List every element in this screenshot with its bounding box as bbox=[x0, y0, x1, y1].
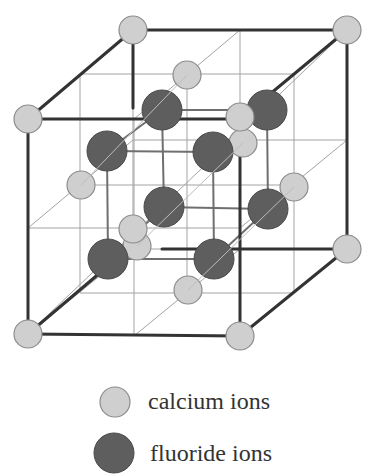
fluoride-ion bbox=[142, 90, 182, 130]
legend-symbols bbox=[94, 387, 134, 473]
fluoride-ion bbox=[88, 239, 128, 279]
calcium-ion-corner-back-top-left bbox=[119, 16, 147, 44]
fluoride-ion bbox=[248, 189, 288, 229]
calcium-ion-corner-front-bottom-right bbox=[226, 322, 254, 350]
fluoride-ion bbox=[193, 132, 233, 172]
legend-label-calcium: calcium ions bbox=[148, 389, 270, 413]
calcium-ion-corner-front-top-left bbox=[14, 105, 42, 133]
fluoride-ion bbox=[194, 239, 234, 279]
calcium-ion-corner-front-bottom-left bbox=[14, 320, 42, 348]
calcium-ion-corner-back-top-right bbox=[333, 16, 361, 44]
legend-label-fluoride: fluoride ions bbox=[150, 441, 272, 465]
calcium-ion-face-front bbox=[119, 215, 147, 243]
calcium-ion-corner-back-bottom-right bbox=[333, 235, 361, 263]
calcium-ion-corner-front-top-right bbox=[226, 103, 254, 131]
fluoride-ion bbox=[144, 187, 184, 227]
fluoride-ion bbox=[247, 90, 287, 130]
fluoride-ion bbox=[87, 131, 127, 171]
legend-fluoride-icon bbox=[94, 433, 134, 473]
legend-calcium-icon bbox=[100, 387, 130, 417]
